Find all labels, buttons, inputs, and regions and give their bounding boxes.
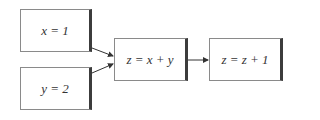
node-label: y = 2 [41, 81, 69, 97]
node-sum: z = x + y [114, 38, 188, 81]
edge-x-to-sum [92, 48, 113, 56]
node-label: z = x + y [126, 52, 173, 68]
node-label: z = z + 1 [221, 52, 268, 68]
node-x-assign: x = 1 [20, 9, 92, 52]
edge-y-to-sum [92, 64, 113, 73]
node-y-assign: y = 2 [20, 67, 92, 110]
node-label: x = 1 [41, 23, 69, 39]
node-increment: z = z + 1 [209, 38, 283, 81]
